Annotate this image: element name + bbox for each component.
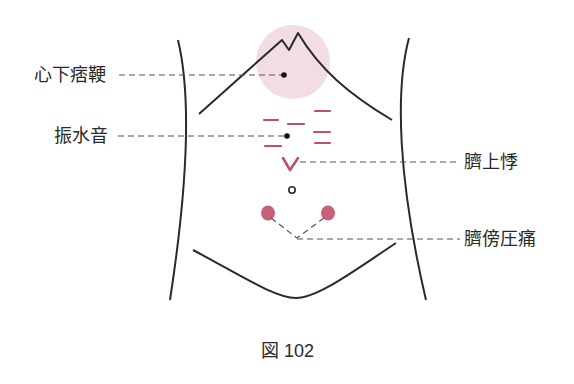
label-epigastric-stiffness: 心下痞鞕	[34, 66, 106, 84]
epigastric-pointer-dot	[281, 72, 287, 78]
lower-abdomen-outline	[193, 243, 396, 298]
splashing-sound-marks	[264, 111, 330, 146]
label-splashing-sound: 振水音	[54, 127, 108, 145]
left-flank-outline	[170, 40, 186, 300]
splash-pointer-dot	[284, 133, 290, 139]
abdominal-diagram-figure: 心下痞鞕 振水音 臍上悸 臍傍圧痛 図 102	[0, 0, 574, 384]
umbilical-pulsation-mark	[283, 158, 298, 170]
abdomen-outline-drawing	[0, 0, 574, 384]
navel-icon	[289, 187, 295, 193]
right-flank-outline	[401, 38, 426, 300]
label-paraumbilical-tenderness: 臍傍圧痛	[464, 230, 536, 248]
left-tender-spot	[261, 206, 275, 221]
label-umbilical-pulsation: 臍上悸	[464, 153, 518, 171]
figure-caption: 図 102	[261, 342, 314, 360]
